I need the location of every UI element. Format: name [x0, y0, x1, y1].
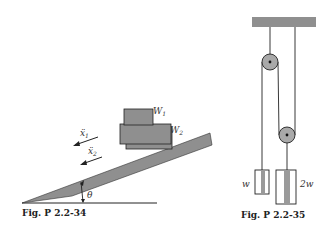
lower-pulley-axle — [286, 134, 289, 137]
label-2w: 2w — [299, 179, 314, 189]
label-w1: W1 — [153, 106, 166, 117]
accel-arrow-2 — [80, 157, 102, 165]
caption-left: Fig. P 2.2-34 — [22, 208, 86, 218]
label-w2: W2 — [170, 125, 183, 136]
block-w1-body — [124, 109, 153, 125]
pulley-figure: w 2w Fig. P 2.2-35 — [241, 17, 316, 220]
mass-w — [255, 170, 269, 194]
caption-right: Fig. P 2.2-35 — [241, 210, 305, 220]
label-w: w — [242, 179, 250, 189]
label-accel-1: ẍ1 — [80, 128, 89, 139]
label-theta: θ — [87, 190, 93, 200]
block-w2-body — [120, 124, 171, 144]
incline-figure: W1 W2 ẍ1 ẍ2 θ Fig. P 2.2-34 — [22, 106, 212, 218]
ceiling-support — [252, 17, 316, 27]
label-accel-2: ẍ2 — [88, 146, 97, 157]
top-pulley-axle — [269, 61, 272, 64]
figure-canvas: W1 W2 ẍ1 ẍ2 θ Fig. P 2.2-34 — [0, 0, 333, 232]
mass-2w — [276, 170, 296, 204]
incline-plane — [22, 133, 212, 203]
rope-between-pulleys — [278, 62, 279, 135]
